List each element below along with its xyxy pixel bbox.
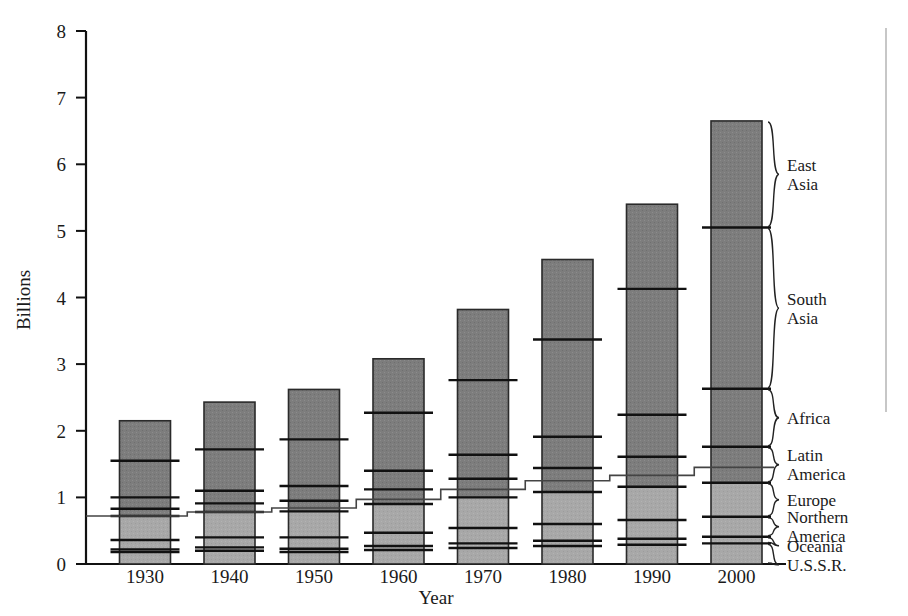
region-label-africa: Africa	[787, 409, 831, 428]
segment-europe	[542, 492, 593, 524]
segment-east-asia	[458, 309, 509, 380]
segment-latin-america	[458, 479, 509, 498]
x-tick-label: 1950	[295, 566, 333, 587]
segment-europe	[711, 483, 762, 517]
y-tick-label: 3	[57, 354, 67, 375]
bar-1990	[618, 204, 687, 564]
segment-europe	[204, 512, 255, 537]
segment-northern-america	[204, 537, 255, 547]
bar-1980	[533, 260, 602, 564]
x-tick-label: 1930	[126, 566, 164, 587]
x-axis-title: Year	[418, 587, 454, 608]
bar-1940	[195, 402, 264, 564]
x-tick-label: 1970	[464, 566, 502, 587]
segment-south-asia	[711, 228, 762, 389]
segment-latin-america	[289, 501, 340, 512]
segment-u-s-s-r	[542, 546, 593, 564]
y-tick-label: 2	[57, 421, 67, 442]
segment-south-asia	[289, 439, 340, 486]
segment-latin-america	[204, 503, 255, 512]
segment-east-asia	[711, 121, 762, 228]
segment-europe	[458, 497, 509, 528]
segment-africa	[542, 437, 593, 468]
bar-1960	[364, 359, 433, 564]
segment-northern-america	[373, 533, 424, 546]
segment-south-asia	[204, 449, 255, 490]
segment-europe	[373, 504, 424, 533]
bar-1970	[449, 309, 518, 564]
y-tick-label: 0	[57, 554, 67, 575]
y-axis-tick-labels: 8 7 6 5 4 3 2 1 0	[57, 21, 67, 575]
segment-u-s-s-r	[120, 552, 171, 564]
segment-south-asia	[120, 461, 171, 498]
segment-u-s-s-r	[289, 552, 340, 564]
segment-africa	[289, 486, 340, 501]
population-stacked-bar-chart: 8 7 6 5 4 3 2 1 0 Billions 1930194019501…	[0, 0, 908, 616]
segment-u-s-s-r	[627, 545, 678, 564]
segment-u-s-s-r	[458, 548, 509, 564]
segment-northern-america	[627, 520, 678, 539]
segment-latin-america	[627, 457, 678, 487]
segment-south-asia	[458, 380, 509, 455]
segment-east-asia	[289, 389, 340, 439]
segment-africa	[204, 491, 255, 504]
segment-europe	[289, 511, 340, 537]
segment-africa	[627, 415, 678, 457]
segment-east-asia	[373, 359, 424, 413]
x-tick-label: 1980	[549, 566, 587, 587]
segment-africa	[373, 471, 424, 490]
x-tick-label: 1960	[380, 566, 418, 587]
segment-latin-america	[711, 447, 762, 483]
segment-u-s-s-r	[711, 543, 762, 564]
segment-africa	[120, 497, 171, 508]
y-tick-label: 5	[57, 221, 67, 242]
segment-u-s-s-r	[204, 551, 255, 564]
bar-1930	[111, 421, 180, 564]
segment-africa	[711, 389, 762, 447]
segment-east-asia	[542, 260, 593, 340]
segment-east-asia	[120, 421, 171, 461]
segment-northern-america	[711, 517, 762, 537]
segment-africa	[458, 455, 509, 479]
y-axis-title: Billions	[13, 270, 34, 330]
y-tick-label: 8	[57, 21, 67, 42]
chart-canvas: 8 7 6 5 4 3 2 1 0 Billions 1930194019501…	[0, 0, 908, 616]
segment-northern-america	[542, 524, 593, 541]
region-label-ussr: U.S.S.R.	[787, 556, 847, 575]
segment-northern-america	[458, 528, 509, 543]
region-label-europe: Europe	[787, 491, 836, 510]
y-tick-label: 6	[57, 154, 67, 175]
segment-latin-america	[373, 489, 424, 504]
segment-northern-america	[289, 537, 340, 548]
x-tick-label: 2000	[718, 566, 756, 587]
segment-south-asia	[373, 413, 424, 471]
x-tick-label: 1940	[211, 566, 249, 587]
segment-east-asia	[627, 204, 678, 289]
y-tick-label: 4	[57, 288, 67, 309]
y-tick-label: 7	[57, 88, 67, 109]
segment-europe	[120, 516, 171, 540]
region-label-oceania: Oceania	[787, 537, 843, 556]
segment-u-s-s-r	[373, 550, 424, 564]
x-tick-label: 1990	[633, 566, 671, 587]
y-tick-label: 1	[57, 487, 67, 508]
segment-south-asia	[627, 289, 678, 415]
segment-south-asia	[542, 339, 593, 436]
segment-east-asia	[204, 402, 255, 449]
bar-2000	[702, 121, 771, 564]
region-label-east-asia: EastAsia	[787, 156, 819, 194]
segment-northern-america	[120, 540, 171, 549]
bar-1950	[280, 389, 349, 564]
segment-europe	[627, 487, 678, 520]
